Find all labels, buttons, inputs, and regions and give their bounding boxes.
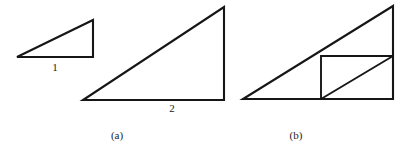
figure-container: 1 2 (a) (b) bbox=[0, 0, 408, 149]
base-label-2: 2 bbox=[169, 103, 175, 114]
small-triangle-shape bbox=[17, 20, 93, 57]
rectangle-diagonal-line bbox=[321, 56, 393, 99]
large-triangle-shape bbox=[83, 7, 224, 100]
base-label-1: 1 bbox=[52, 62, 58, 73]
panel-caption-b: (b) bbox=[290, 130, 303, 141]
figure-canvas bbox=[0, 0, 408, 149]
panel-caption-a: (a) bbox=[111, 130, 123, 141]
outer-triangle-shape bbox=[243, 6, 393, 99]
